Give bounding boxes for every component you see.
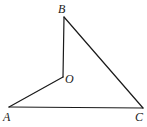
segment-AC [9,107,143,108]
label-O: O [65,72,74,86]
segment-BO [63,17,64,77]
label-C: C [135,110,144,124]
segment-CB [64,17,143,108]
label-A: A [2,110,11,124]
segment-OA [9,77,63,107]
geometry-diagram: B O A C [0,0,147,127]
label-B: B [58,2,66,16]
